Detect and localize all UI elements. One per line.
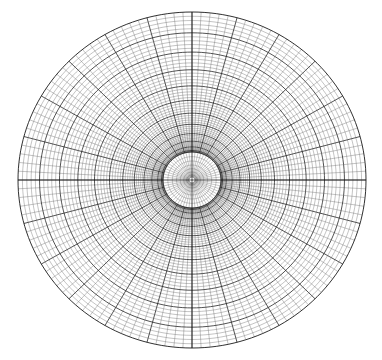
polar-mesh-figure: [0, 0, 382, 360]
figure-root: [0, 0, 382, 360]
